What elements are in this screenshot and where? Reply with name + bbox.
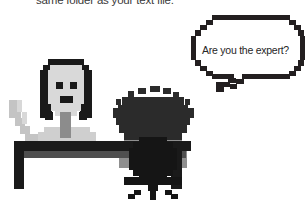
illustration-canvas: same folder as your text file. [0,0,305,202]
standing-person-face [48,65,84,116]
standing-person-mouth [60,96,73,103]
speech-bubble-text: Are you the expert? [186,44,305,56]
speech-bubble: Are you the expert? [186,12,305,98]
seated-person-hair [113,86,194,140]
standing-person-neck [60,112,71,138]
